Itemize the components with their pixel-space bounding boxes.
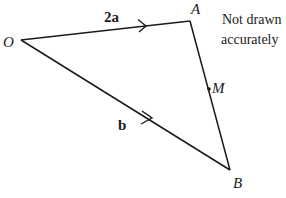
label-O: O: [3, 34, 14, 50]
note-line-2: accurately: [221, 32, 279, 47]
line-OB: [21, 40, 230, 170]
label-B: B: [233, 175, 242, 191]
label-vector-b: b: [118, 117, 126, 133]
point-M-marker: [207, 87, 211, 91]
label-vector-2a: 2a: [104, 9, 120, 25]
note-line-1: Not drawn: [222, 12, 282, 27]
label-M: M: [211, 80, 226, 96]
label-A: A: [190, 1, 201, 17]
vector-triangle-diagram: O A B M 2a b Not drawn accurately: [0, 0, 286, 198]
